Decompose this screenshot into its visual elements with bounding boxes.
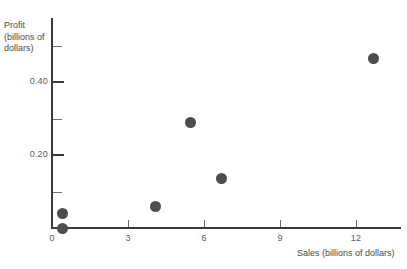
y-axis-title-line-3: dollars) [4,43,50,55]
x-tick-label: 12 [341,233,371,243]
x-axis-line [51,227,401,229]
scatter-plot-figure: Profit (billions of dollars) Sales (bill… [0,0,407,269]
x-tick-label: 0 [37,233,67,243]
data-point [57,208,68,219]
y-axis-title: Profit (billions of dollars) [4,20,50,55]
data-point [216,173,227,184]
x-tick [356,220,357,227]
data-point [150,201,161,212]
x-tick [128,220,129,227]
y-tick-label: 0.20 [10,149,48,159]
data-point [57,223,68,234]
y-axis-line [51,18,53,229]
x-axis-title: Sales (billions of dollars) [297,248,395,258]
y-tick-major [53,154,64,156]
x-tick-label: 9 [265,233,295,243]
data-point [368,53,379,64]
x-tick [204,220,205,227]
y-tick-minor [53,46,62,47]
y-axis-title-line-2: (billions of [4,32,50,44]
x-tick-label: 3 [113,233,143,243]
y-tick-label: 0.40 [10,76,48,86]
data-point [185,117,196,128]
x-tick-label: 6 [189,233,219,243]
y-tick-minor [53,192,62,193]
y-tick-major [53,81,64,83]
y-tick-minor [53,119,62,120]
x-tick [280,220,281,227]
y-axis-title-line-1: Profit [4,20,50,32]
